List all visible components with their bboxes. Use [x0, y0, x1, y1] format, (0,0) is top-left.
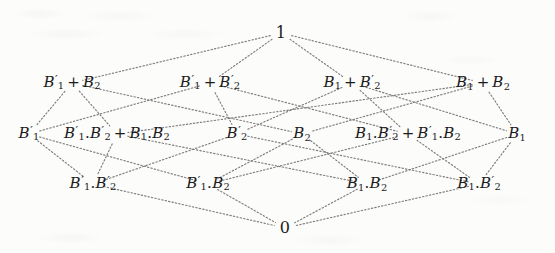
- lattice-node-level2-0: B′1: [19, 125, 40, 142]
- variable-symbol: B: [417, 124, 428, 142]
- lattice-node-level2-5: B1: [508, 126, 526, 143]
- lattice-node-level1-0: B′1+B2: [43, 74, 100, 91]
- lattice-node-level2-4: B1.B′2+B′1.B2: [355, 125, 461, 142]
- operator-plus: +: [399, 124, 418, 142]
- lattice-edge: [36, 91, 65, 125]
- subscript: 1: [200, 182, 207, 193]
- lattice-node-level1-2: B1+B′2: [323, 74, 380, 91]
- subscript: 2: [241, 132, 248, 143]
- variable-symbol: B: [360, 73, 371, 91]
- lattice-node-level3-2: B1.B2: [347, 176, 388, 193]
- operator-plus: +: [111, 124, 130, 142]
- subscript: 1: [33, 132, 40, 143]
- subscript: 1: [468, 182, 475, 193]
- subscript: 2: [374, 81, 381, 92]
- subscript: 1: [335, 81, 342, 92]
- subscript: 2: [304, 131, 311, 142]
- hasse-diagram-figure: 1B′1+B2B′1+B′2B1+B′2B1+B2B′1B′1.B′2+B1.B…: [0, 0, 555, 253]
- lattice-edge: [292, 36, 473, 81]
- subscript: 2: [381, 181, 388, 192]
- subscript: 2: [94, 81, 101, 92]
- subscript: 1: [194, 81, 201, 92]
- variable-symbol: B: [480, 174, 491, 192]
- variable-symbol: B: [370, 174, 381, 192]
- operator-plus: +: [341, 73, 360, 91]
- subscript: 1: [366, 132, 373, 143]
- lattice-node-top: 1: [276, 25, 286, 41]
- variable-symbol: B: [90, 124, 101, 142]
- subscript: 1: [58, 81, 65, 92]
- variable-symbol: B: [96, 174, 107, 192]
- lattice-node-level3-1: B′1.B2: [186, 175, 230, 192]
- variable-symbol: B: [227, 124, 238, 142]
- subscript: 1: [467, 80, 474, 91]
- variable-symbol: B: [152, 124, 163, 142]
- lattice-edge: [489, 92, 511, 125]
- variable-symbol: B: [186, 174, 197, 192]
- variable-symbol: B: [355, 124, 366, 142]
- lattice-edge: [98, 144, 112, 174]
- lattice-node-level1-3: B1+B2: [456, 75, 510, 92]
- subscript: 2: [234, 81, 241, 92]
- variable-symbol: B: [443, 124, 454, 142]
- variable-symbol: B: [378, 124, 389, 142]
- lattice-node-level2-3: B2: [293, 126, 311, 143]
- variable-symbol: B: [83, 73, 94, 91]
- subscript: 2: [104, 132, 111, 143]
- variable-symbol: B: [457, 174, 468, 192]
- variable-symbol: B: [70, 174, 81, 192]
- operator-plus: +: [474, 73, 493, 91]
- operator-plus: +: [201, 73, 220, 91]
- node-label: 0: [280, 218, 290, 237]
- variable-symbol: B: [43, 73, 54, 91]
- node-label: 1: [276, 23, 286, 42]
- variable-symbol: B: [129, 124, 140, 142]
- lattice-edge: [128, 136, 356, 182]
- variable-symbol: B: [323, 73, 334, 91]
- subscript: 2: [392, 132, 399, 143]
- operator-plus: +: [64, 73, 83, 91]
- variable-symbol: B: [64, 124, 75, 142]
- lattice-edge: [83, 36, 271, 81]
- subscript: 1: [358, 181, 365, 192]
- variable-symbol: B: [492, 73, 503, 91]
- lattice-edge: [311, 141, 359, 178]
- lattice-edge: [40, 137, 198, 181]
- variable-symbol: B: [293, 124, 304, 142]
- subscript: 2: [223, 182, 230, 193]
- subscript: 1: [84, 182, 91, 193]
- lattice-edge: [486, 143, 511, 175]
- lattice-edge: [295, 189, 358, 223]
- variable-symbol: B: [180, 73, 191, 91]
- variable-symbol: B: [212, 174, 223, 192]
- lattice-node-level2-1: B′1.B′2+B1.B2: [64, 125, 170, 142]
- subscript: 2: [110, 182, 117, 193]
- lattice-edge: [290, 39, 343, 76]
- lattice-edge: [218, 190, 276, 223]
- lattice-node-level3-3: B1.B′2: [457, 175, 501, 192]
- lattice-edge: [218, 139, 293, 179]
- lattice-node-level1-1: B′1+B′2: [180, 74, 240, 91]
- variable-symbol: B: [347, 174, 358, 192]
- variable-symbol: B: [19, 124, 30, 142]
- lattice-edge: [38, 141, 85, 177]
- variable-symbol: B: [456, 73, 467, 91]
- lattice-edge: [79, 91, 109, 126]
- lattice-node-bottom: 0: [280, 220, 290, 236]
- subscript: 1: [78, 132, 85, 143]
- subscript: 1: [519, 131, 526, 142]
- subscript: 2: [503, 80, 510, 91]
- lattice-node-level2-2: B′2: [227, 125, 248, 142]
- variable-symbol: B: [508, 124, 519, 142]
- lattice-node-level3-0: B′1.B′2: [70, 175, 117, 192]
- subscript: 2: [494, 182, 501, 193]
- variable-symbol: B: [219, 73, 230, 91]
- subscript: 2: [163, 132, 170, 143]
- subscript: 2: [454, 132, 461, 143]
- lattice-edge: [219, 39, 272, 76]
